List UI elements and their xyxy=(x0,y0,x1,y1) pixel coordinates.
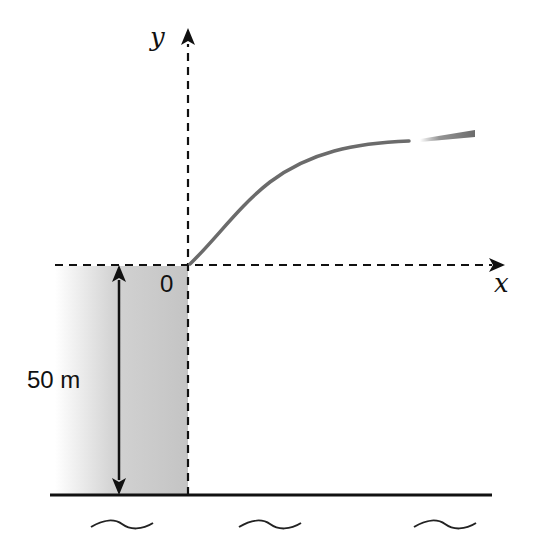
origin-label: 0 xyxy=(160,270,173,298)
x-axis-label: x xyxy=(494,268,509,298)
wave-icon xyxy=(239,521,301,529)
water-waves xyxy=(91,521,476,529)
motion-blur-segment xyxy=(420,130,475,142)
y-axis-label: y xyxy=(150,22,165,52)
arrow-up-icon xyxy=(181,28,195,45)
trajectory xyxy=(190,130,475,264)
cliff-height-label: 50 m xyxy=(27,366,80,394)
wave-icon xyxy=(414,521,476,529)
diagram-canvas: y x 0 50 m xyxy=(0,0,537,556)
wave-icon xyxy=(91,521,153,529)
